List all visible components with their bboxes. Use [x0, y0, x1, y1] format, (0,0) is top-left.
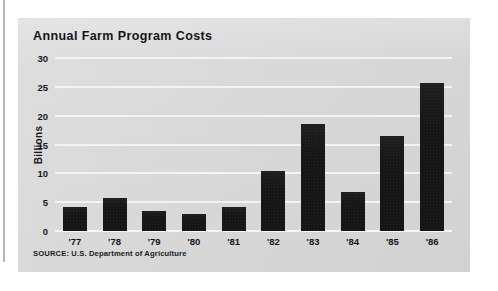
- bar-group-86: '86: [412, 58, 452, 231]
- bar: [380, 136, 404, 231]
- bar: [341, 192, 365, 231]
- bar: [103, 198, 127, 231]
- y-tick-label: 5: [43, 197, 48, 208]
- chart-panel: Annual Farm Program Costs Billions 05101…: [18, 18, 470, 272]
- bar-group-85: '85: [373, 58, 413, 231]
- bar: [63, 207, 87, 231]
- y-tick-label: 30: [37, 53, 48, 64]
- bar-group-84: '84: [333, 58, 373, 231]
- bar-group-77: '77: [55, 58, 95, 231]
- bar: [222, 207, 246, 231]
- x-tick-label: '79: [148, 236, 161, 247]
- y-tick-label: 15: [37, 139, 48, 150]
- x-tick-label: '81: [227, 236, 240, 247]
- bar-group-79: '79: [134, 58, 174, 231]
- bar: [420, 83, 444, 231]
- bar-group-78: '78: [95, 58, 135, 231]
- bar-series: '77'78'79'80'81'82'83'84'85'86: [55, 58, 452, 231]
- bar-group-83: '83: [293, 58, 333, 231]
- bar: [261, 171, 285, 231]
- y-tick-label: 10: [37, 168, 48, 179]
- x-tick-label: '78: [108, 236, 121, 247]
- x-tick-label: '80: [188, 236, 201, 247]
- bar: [182, 214, 206, 231]
- x-tick-label: '85: [386, 236, 399, 247]
- y-tick-label: 0: [43, 226, 48, 237]
- y-tick-label: 25: [37, 81, 48, 92]
- chart-title: Annual Farm Program Costs: [33, 29, 212, 43]
- bar-group-82: '82: [254, 58, 294, 231]
- x-tick-label: '77: [68, 236, 81, 247]
- bar: [142, 211, 166, 231]
- bar-group-80: '80: [174, 58, 214, 231]
- page-edge-rule: [3, 0, 5, 262]
- x-tick-label: '82: [267, 236, 280, 247]
- x-tick-label: '84: [346, 236, 359, 247]
- y-tick-label: 20: [37, 110, 48, 121]
- x-tick-label: '83: [307, 236, 320, 247]
- bar-group-81: '81: [214, 58, 254, 231]
- bar: [301, 124, 325, 231]
- plot-area: Billions 051015202530 '77'78'79'80'81'82…: [55, 58, 452, 231]
- x-tick-label: '86: [426, 236, 439, 247]
- source-note: SOURCE: U.S. Department of Agriculture: [33, 249, 187, 258]
